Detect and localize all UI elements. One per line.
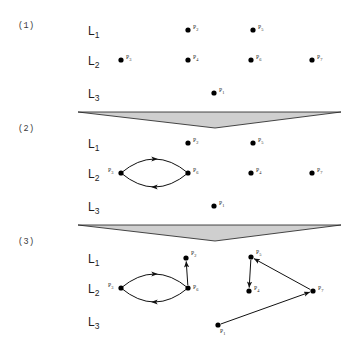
edge-p6-p2 [186, 261, 188, 285]
panel-2-layer-label-l2: L2 [88, 167, 99, 183]
panel-2-node-p1 [211, 203, 216, 208]
panel-2-node-p5 [250, 140, 255, 145]
panel-1-layer-label-l2: L2 [88, 54, 99, 70]
panel-1-node-p6 [248, 57, 253, 62]
cycle-p3-p6-arc-top [121, 274, 188, 288]
panel-3-node-p1 [215, 322, 220, 327]
panel-2-number: (2) [18, 124, 35, 134]
panel-1-wedge [78, 112, 341, 128]
panel-3-layer-label-l3: L3 [88, 315, 99, 331]
panel-3-layer-label-l1: L1 [88, 252, 99, 268]
cycle-p3-p6-arc-bottom [121, 288, 188, 302]
panel-1-node-label-p6: P6 [256, 54, 261, 62]
panel-1-node-label-p7: P7 [317, 54, 322, 62]
panel-2-wedge [78, 225, 341, 241]
cycle-p3-p6-arc-bottom [121, 173, 188, 187]
panel-1-node-label-p5: P5 [258, 24, 263, 32]
panel-2-layer-label-l1: L1 [88, 137, 99, 153]
panel-3-node-label-p7: P7 [318, 285, 323, 293]
panel-1-node-p5 [250, 27, 255, 32]
panel-3-node-p2 [183, 255, 188, 260]
panel-1-node-label-p2: P2 [193, 24, 198, 32]
panel-3-node-label-p4: P4 [254, 285, 259, 293]
panel-3-node-label-p6: P6 [193, 284, 198, 292]
panel-2-node-label-p6: P6 [193, 167, 198, 175]
panel-3-node-label-p3: P3 [108, 282, 113, 290]
panel-2-node-label-p5: P5 [258, 137, 263, 145]
panel-1 [78, 27, 341, 128]
panel-2-node-p6 [185, 170, 190, 175]
panel-1-node-p1 [211, 90, 216, 95]
edge-p7-p5 [254, 259, 310, 290]
panel-2-node-label-p2: P2 [193, 137, 198, 145]
panel-1-node-p2 [185, 27, 190, 32]
panel-3-node-label-p5: P5 [256, 249, 261, 257]
panel-1-layer-label-l1: L1 [88, 24, 99, 40]
panel-3-node-label-p2: P2 [191, 250, 196, 258]
panel-1-layer-label-l3: L3 [88, 87, 99, 103]
panel-2-node-label-p7: P7 [317, 167, 322, 175]
panel-3-node-p3 [118, 285, 123, 290]
panel-3-number: (3) [18, 237, 35, 247]
cycle-p3-p6-arc-top [121, 159, 188, 173]
panel-2-node-label-p3: P3 [108, 167, 113, 175]
edge-p5-p4 [249, 260, 251, 288]
panel-1-node-label-p1: P1 [219, 87, 224, 95]
panel-3-node-p6 [185, 285, 190, 290]
panel-1-node-p3 [118, 57, 123, 62]
graph-svg [0, 0, 357, 357]
figure-canvas: (1)L1L2L3P2P5P3P4P6P7P1(2)L1L2L3P2P5P3P6… [0, 0, 357, 357]
panel-1-number: (1) [18, 21, 35, 31]
panel-2 [78, 140, 341, 241]
panel-2-node-label-p4: P4 [256, 167, 261, 175]
panel-3-node-p5 [248, 254, 253, 259]
panel-3-layer-label-l2: L2 [88, 282, 99, 298]
panel-2-node-p2 [185, 140, 190, 145]
panel-1-node-label-p3: P3 [126, 54, 131, 62]
panel-1-node-p4 [185, 57, 190, 62]
panel-2-layer-label-l3: L3 [88, 200, 99, 216]
panel-2-node-p4 [248, 170, 253, 175]
panel-2-node-p3 [118, 170, 123, 175]
panel-2-node-p7 [309, 170, 314, 175]
panel-2-node-label-p1: P1 [219, 200, 224, 208]
panel-1-node-label-p4: P4 [193, 54, 198, 62]
panel-3 [118, 254, 315, 327]
edge-p1-p7 [221, 292, 310, 324]
panel-3-node-p7 [310, 288, 315, 293]
panel-3-node-label-p1: P1 [220, 328, 225, 336]
panel-1-node-p7 [309, 57, 314, 62]
panel-3-node-p4 [246, 288, 251, 293]
